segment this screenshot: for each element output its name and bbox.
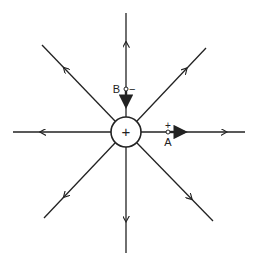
field-line-upper-right (137, 48, 206, 121)
field-line-lower-left (44, 143, 115, 218)
field-line-upper-left (42, 45, 115, 121)
field-line-lower-right (137, 143, 213, 221)
field-diagram: + + A B − (0, 0, 255, 263)
point-b-sign: − (129, 83, 135, 95)
point-a-sign: + (165, 120, 171, 131)
point-b-label: B (113, 83, 120, 95)
point-a-label: A (164, 136, 172, 148)
test-point-b (124, 87, 128, 91)
central-charge-sign: + (122, 123, 131, 140)
